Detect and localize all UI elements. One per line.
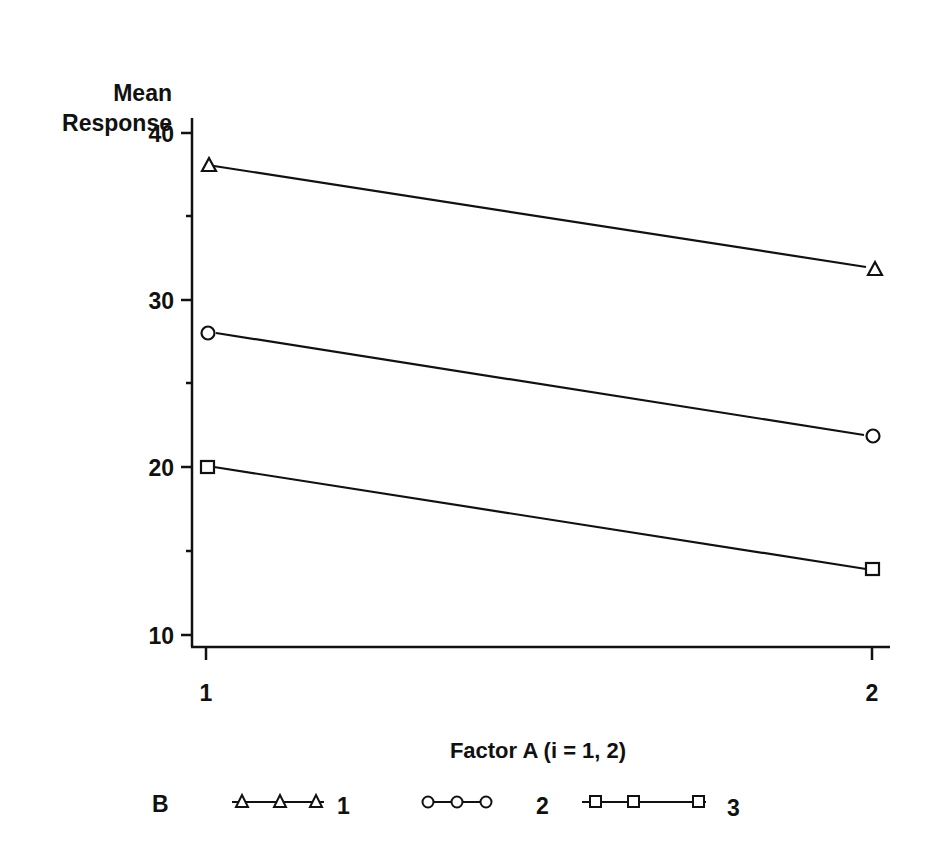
series-line-b3 [214,467,866,569]
circle-icon [423,797,434,808]
legend-item-1 [232,795,324,807]
triangle-marker [202,158,216,171]
square-marker [201,461,214,473]
legend: B 1 2 3 [152,791,740,821]
y-tick-label: 10 [148,623,174,649]
y-tick-label: 20 [148,455,174,481]
interaction-plot: Mean Response 40 30 20 10 1 2 Factor A (… [0,0,938,863]
x-axis [191,647,890,660]
legend-label-2: 2 [536,793,549,819]
y-axis-label-line1: Mean [113,80,172,106]
legend-title: B [152,791,169,817]
y-tick-label: 40 [148,121,174,147]
legend-label-1: 1 [337,793,350,819]
y-tick-label: 30 [148,288,174,314]
circle-marker [202,327,215,340]
legend-item-3 [582,796,706,807]
series-line-b1 [214,166,866,267]
circle-icon [452,797,463,808]
series-line-b2 [216,333,864,435]
square-icon [628,796,639,807]
x-tick-label: 2 [866,680,879,706]
circle-icon [481,797,492,808]
square-icon [693,796,704,807]
y-axis [181,118,192,647]
x-tick-label: 1 [200,680,213,706]
legend-label-3: 3 [727,795,740,821]
triangle-marker [868,262,882,275]
square-marker [866,563,879,575]
legend-item-2 [423,797,492,808]
square-icon [590,796,601,807]
x-axis-label: Factor A (i = 1, 2) [450,738,626,763]
circle-marker [867,430,880,443]
